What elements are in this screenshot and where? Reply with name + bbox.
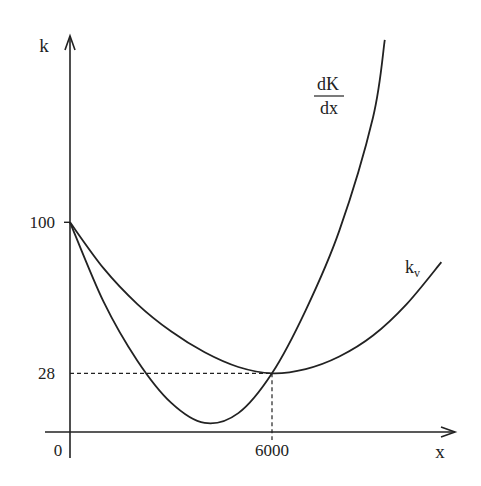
series-line-kv (70, 222, 441, 373)
series-label-kv-main: k (405, 257, 414, 277)
guides (70, 373, 272, 440)
series-label-dkdx-numerator: dK (317, 74, 339, 94)
series-label-dkdx-denominator: dx (320, 98, 338, 118)
series-label-kv: kv (405, 257, 420, 280)
chart: k x 100 28 0 6000 dK dx kv (0, 0, 481, 486)
x-axis-label: x (435, 441, 445, 462)
y-tick-label: 100 (30, 213, 56, 232)
series-group (70, 40, 441, 424)
axes (45, 36, 455, 458)
y-tick-label: 28 (38, 364, 55, 383)
x-tick-label: 6000 (255, 441, 289, 460)
labels-group: k x 100 28 0 6000 dK dx kv (30, 35, 446, 462)
series-label-kv-subscript: v (414, 266, 420, 280)
y-axis-label: k (39, 35, 49, 56)
x-tick-label: 0 (54, 441, 63, 460)
